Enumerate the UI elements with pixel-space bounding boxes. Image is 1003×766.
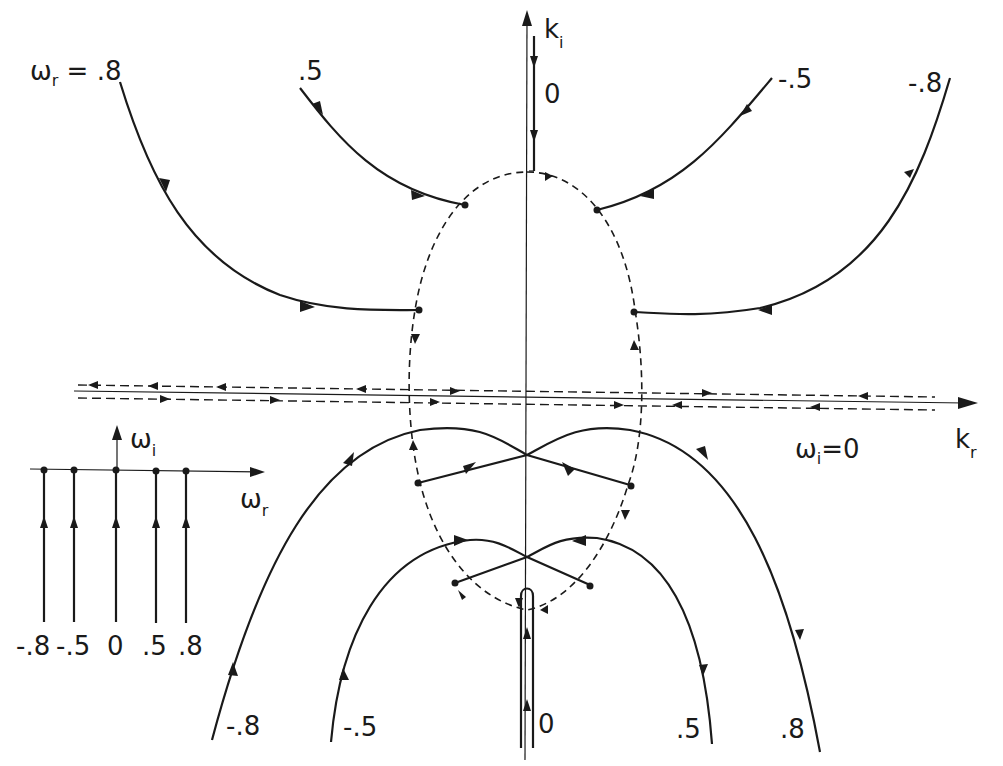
label-top-neg0.8: -.8 <box>908 68 942 98</box>
omega-i-zero-label: ωi=0 <box>795 434 860 468</box>
trajectory-lower-neg0.8 <box>212 428 630 740</box>
label-bottom-0.5: .5 <box>676 714 701 744</box>
label-bottom-neg0.8: -.8 <box>226 711 260 741</box>
trajectory-upper-neg0.5 <box>597 78 772 210</box>
k-plane-trajectory-diagram: ki kr <box>0 0 1003 766</box>
trajectory-upper-0.8 <box>120 82 418 310</box>
lower-trajectories <box>212 428 820 752</box>
inset-omega-r-label: ωr <box>240 484 269 520</box>
inset-tick-0.5: .5 <box>142 631 167 661</box>
label-top-neg0.5: -.5 <box>778 64 812 94</box>
ki-axis <box>525 14 527 760</box>
label-bottom-0.8: .8 <box>780 714 805 744</box>
omega-plane-inset: ωi ωr -.8 -.5 0 .5 .8 <box>16 424 269 661</box>
trajectory-lower-0.8 <box>418 428 820 752</box>
label-bottom-neg0.5: -.5 <box>343 712 377 742</box>
real-axis-dashed-paths <box>78 381 935 411</box>
inset-tick-neg0.5: -.5 <box>56 631 90 661</box>
trajectory-lower-0 <box>521 589 533 749</box>
trajectory-upper-0.5 <box>300 88 465 205</box>
inset-omega-i-label: ωi <box>130 424 156 460</box>
trajectory-upper-neg0.8 <box>634 78 950 314</box>
inset-tick-neg0.8: -.8 <box>16 631 50 661</box>
label-top-0.5: .5 <box>298 56 323 86</box>
kr-axis-arrowhead-icon <box>958 397 978 409</box>
ki-axis-arrowhead-icon <box>522 10 532 26</box>
label-top-0: 0 <box>544 79 561 109</box>
inset-omega-r-axis <box>30 469 258 472</box>
ki-axis-label: ki <box>544 14 564 52</box>
upper-trajectories <box>120 36 950 316</box>
kr-axis <box>74 391 965 403</box>
inset-tick-0: 0 <box>107 631 124 661</box>
label-bottom-0: 0 <box>538 709 555 739</box>
kr-axis-label: kr <box>955 424 977 462</box>
main-axes <box>74 10 978 760</box>
omega-r-top-title: ωr = .8 <box>30 56 121 90</box>
inset-tick-0.8: .8 <box>178 631 203 661</box>
trajectory-lower-0.5 <box>455 538 712 744</box>
